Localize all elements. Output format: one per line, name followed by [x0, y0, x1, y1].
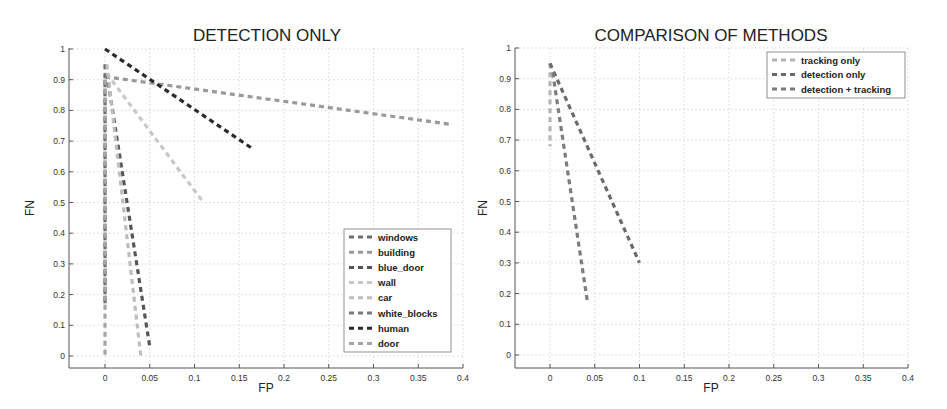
x-tick-label: 0.2	[723, 373, 735, 383]
y-tick-label: 1	[506, 43, 511, 53]
x-tick-label: 0.3	[368, 373, 380, 383]
y-tick-label: 0.3	[53, 259, 65, 269]
y-tick-label: 0	[60, 351, 65, 361]
chart-panel-1: 00.050.10.150.20.250.30.350.400.10.20.30…	[23, 26, 469, 395]
series-group	[550, 63, 640, 302]
chart-panel-2: 00.050.10.150.20.250.30.350.400.10.20.30…	[476, 26, 914, 395]
legend-label: car	[378, 292, 393, 303]
x-tick-label: 0.05	[586, 373, 603, 383]
x-tick-label: 0	[548, 373, 553, 383]
y-axis-label: FN	[476, 200, 490, 216]
legend-label: white_blocks	[377, 308, 438, 319]
x-axis-label: FP	[258, 381, 273, 395]
y-tick-label: 1	[60, 44, 65, 54]
chart-title: COMPARISON OF METHODS	[595, 26, 828, 45]
legend-label: windows	[377, 232, 418, 243]
x-tick-label: 0.15	[231, 373, 248, 383]
y-tick-label: 0.5	[53, 198, 65, 208]
x-tick-label: 0.25	[765, 373, 782, 383]
y-axis-label: FN	[23, 200, 37, 216]
legend: tracking onlydetection onlydetection + t…	[767, 52, 905, 98]
series-line-human	[105, 49, 253, 149]
y-tick-label: 0.9	[499, 74, 511, 84]
y-tick-label: 0	[506, 350, 511, 360]
y-tick-label: 0.5	[499, 197, 511, 207]
y-tick-label: 0.7	[499, 135, 511, 145]
x-tick-label: 0.35	[855, 373, 872, 383]
y-tick-label: 0.6	[499, 166, 511, 176]
chart-title: DETECTION ONLY	[193, 26, 341, 45]
y-tick-label: 0.7	[53, 136, 65, 146]
figure-canvas: 00.050.10.150.20.250.30.350.400.10.20.30…	[0, 0, 947, 409]
legend-label: blue_door	[378, 262, 424, 273]
legend-label: tracking only	[801, 55, 861, 66]
y-tick-label: 0.3	[499, 258, 511, 268]
x-tick-label: 0.35	[410, 373, 427, 383]
y-tick-label: 0.6	[53, 167, 65, 177]
legend-label: detection only	[801, 69, 866, 80]
x-tick-label: 0.05	[141, 373, 158, 383]
x-tick-label: 0	[103, 373, 108, 383]
legend: windowsbuildingblue_doorwallcarwhite_blo…	[344, 229, 451, 352]
x-tick-label: 0.1	[189, 373, 201, 383]
x-tick-label: 0.3	[813, 373, 825, 383]
x-tick-label: 0.4	[902, 373, 914, 383]
y-tick-label: 0.9	[53, 75, 65, 85]
x-axis-label: FP	[703, 381, 718, 395]
x-tick-label: 0.2	[278, 373, 290, 383]
x-tick-label: 0.1	[634, 373, 646, 383]
y-tick-label: 0.8	[53, 105, 65, 115]
series-line-car	[107, 64, 141, 356]
y-tick-label: 0.8	[499, 104, 511, 114]
legend-label: wall	[377, 277, 396, 288]
series-line-building	[105, 77, 450, 125]
series-line-blue-door	[107, 74, 150, 347]
x-tick-label: 0.25	[320, 373, 337, 383]
legend-label: detection + tracking	[801, 84, 891, 95]
legend-label: door	[378, 338, 399, 349]
legend-label: human	[378, 323, 409, 334]
y-tick-label: 0.4	[499, 227, 511, 237]
y-tick-label: 0.2	[53, 290, 65, 300]
x-tick-label: 0.4	[457, 373, 469, 383]
y-tick-label: 0.4	[53, 228, 65, 238]
legend-label: building	[378, 247, 415, 258]
y-tick-label: 0.2	[499, 289, 511, 299]
x-tick-label: 0.15	[676, 373, 693, 383]
y-tick-label: 0.1	[499, 319, 511, 329]
y-tick-label: 0.1	[53, 320, 65, 330]
